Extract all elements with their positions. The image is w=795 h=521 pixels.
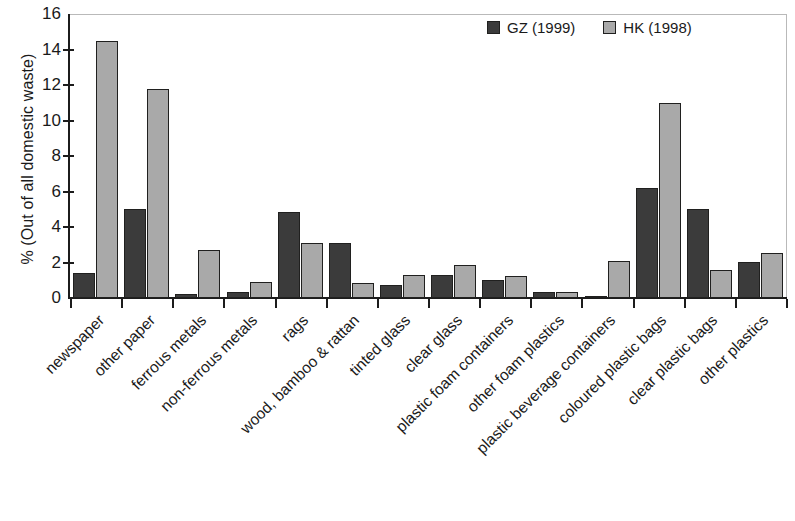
x-axis-category-labels: newspaperother paperferrous metalsnon-fe… xyxy=(0,0,795,521)
x-axis-label-text: clear plastic bags xyxy=(625,312,721,408)
x-axis-label-text: rags xyxy=(279,312,312,345)
x-axis-label: other foam plastics xyxy=(556,220,659,323)
x-axis-label: rags xyxy=(300,291,333,324)
x-axis-label: non-ferrous metals xyxy=(249,221,352,324)
x-axis-label-text: other foam plastics xyxy=(464,312,567,415)
bar-chart-figure: % (Out of all domestic waste) 1614121086… xyxy=(0,0,795,521)
x-axis-label-text: non-ferrous metals xyxy=(158,312,261,415)
